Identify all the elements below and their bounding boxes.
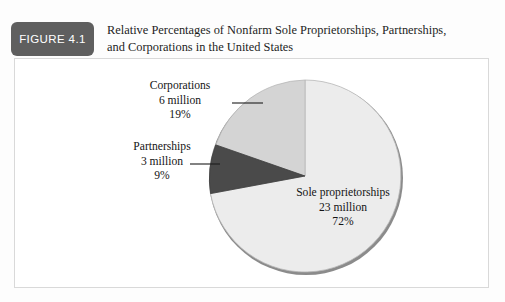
- callout-sole-name: Sole proprietorships: [277, 186, 409, 201]
- callout-corporations: Corporations 6 million 19%: [130, 79, 230, 123]
- callout-corporations-percent: 19%: [130, 108, 230, 123]
- callout-corporations-count: 6 million: [130, 94, 230, 109]
- callout-corporations-name: Corporations: [130, 79, 230, 94]
- callout-partnerships: Partnerships 3 million 9%: [112, 140, 212, 184]
- pie-chart-area: [14, 58, 489, 288]
- figure-number-badge: FIGURE 4.1: [11, 22, 94, 56]
- figure-number-label: FIGURE 4.1: [19, 33, 86, 45]
- figure-title-line-1: Relative Percentages of Nonfarm Sole Pro…: [107, 22, 492, 39]
- callout-sole-proprietorships: Sole proprietorships 23 million 72%: [277, 186, 409, 230]
- figure-title: Relative Percentages of Nonfarm Sole Pro…: [107, 22, 492, 55]
- figure-container: FIGURE 4.1 Relative Percentages of Nonfa…: [0, 0, 505, 302]
- callout-partnerships-count: 3 million: [112, 155, 212, 170]
- figure-title-line-2: and Corporations in the United States: [107, 39, 492, 56]
- callout-partnerships-percent: 9%: [112, 169, 212, 184]
- callout-sole-percent: 72%: [277, 215, 409, 230]
- callout-partnerships-name: Partnerships: [112, 140, 212, 155]
- pie-chart-svg: [14, 58, 489, 288]
- callout-sole-count: 23 million: [277, 201, 409, 216]
